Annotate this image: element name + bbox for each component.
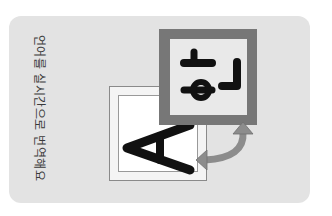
- swap-arrow-icon: [0, 0, 332, 216]
